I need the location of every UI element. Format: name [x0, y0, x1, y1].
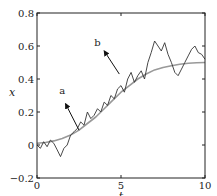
annotation-arrow-b	[104, 51, 119, 74]
annotation-label-a: a	[59, 85, 65, 96]
y-tick-label: 0.4	[18, 74, 34, 85]
line-chart: ab 0510−0.200.20.40.60.8 t x	[0, 0, 217, 196]
series-smooth	[37, 63, 205, 144]
x-tick-label: 10	[199, 180, 212, 191]
x-axis-label: t	[119, 190, 124, 196]
series-noisy	[37, 41, 205, 157]
x-tick-label: 0	[34, 180, 40, 191]
y-tick-label: 0.6	[18, 41, 34, 52]
annotation-label-b: b	[94, 37, 100, 48]
y-tick-label: −0.2	[10, 173, 34, 184]
y-tick-label: 0.2	[18, 107, 34, 118]
y-tick-label: 0	[28, 140, 34, 151]
y-tick-label: 0.8	[18, 8, 34, 19]
series-layer	[37, 41, 205, 157]
axis-ticks: 0510−0.200.20.40.60.8	[10, 8, 212, 192]
annotation-arrow-a	[66, 104, 79, 130]
y-axis-label: x	[9, 86, 16, 99]
